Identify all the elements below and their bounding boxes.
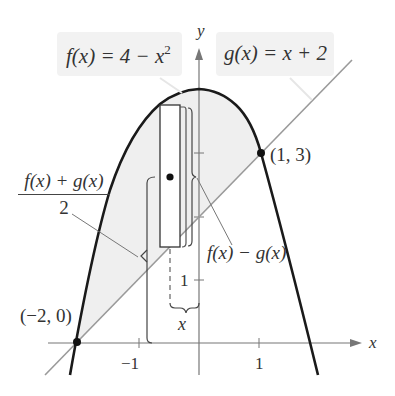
y-axis-arrow-icon [195, 48, 203, 60]
difference-label: f(x) − g(x) [207, 243, 286, 262]
x-distance-brace-icon [170, 303, 199, 313]
intersection-point-left [73, 338, 81, 346]
figure: f(x) = 4 − x2 g(x) = x + 2 y x f(x) + g(… [0, 0, 395, 396]
midpoint-denominator: 2 [18, 195, 110, 219]
x-axis-arrow-icon [350, 339, 362, 347]
leader-f-label [160, 78, 182, 93]
f-label-exponent: 2 [164, 42, 171, 57]
intersection-point-right [257, 149, 265, 157]
x-axis-label: x [369, 334, 377, 351]
g-label: g(x) = x + 2 [224, 43, 327, 64]
leader-g-label [290, 78, 312, 100]
midpoint-numerator: f(x) + g(x) [18, 170, 110, 195]
point-left-label: (−2, 0) [20, 306, 72, 325]
midpoint-label: f(x) + g(x) 2 [18, 170, 110, 219]
tick-label-y-1: 1 [180, 272, 189, 289]
y-axis-label: y [197, 22, 205, 39]
f-label-text: f(x) = 4 − x [66, 44, 164, 68]
f-label: f(x) = 4 − x2 [66, 43, 171, 67]
midpoint-dot [166, 173, 173, 180]
tick-label-x-1: 1 [255, 355, 264, 372]
point-right-label: (1, 3) [270, 145, 311, 164]
width-label: x [178, 315, 186, 333]
tick-label-x-neg1: −1 [121, 355, 139, 372]
